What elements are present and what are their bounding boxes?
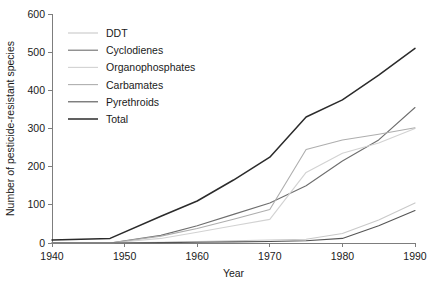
x-axis-title: Year — [223, 267, 245, 279]
x-tick-label: 1970 — [258, 250, 282, 262]
legend-label-pyrethroids: Pyrethroids — [106, 96, 159, 108]
series-line-total — [52, 48, 415, 240]
y-tick-label: 200 — [27, 160, 45, 172]
y-tick-label: 400 — [27, 84, 45, 96]
axis-layer: 0100200300400500600194019501960197019801… — [27, 8, 426, 262]
y-tick-label: 100 — [27, 198, 45, 210]
x-tick-label: 1960 — [186, 250, 210, 262]
x-tick-label: 1990 — [403, 250, 427, 262]
legend-label-organophosphates: Organophosphates — [106, 61, 195, 73]
y-tick-label: 300 — [27, 122, 45, 134]
y-tick-label: 500 — [27, 46, 45, 58]
x-tick-label: 1980 — [331, 250, 355, 262]
x-tick-label: 1940 — [40, 250, 64, 262]
x-tick-label: 1950 — [113, 250, 137, 262]
chart-container: 0100200300400500600194019501960197019801… — [0, 0, 427, 283]
legend-label-carbamates: Carbamates — [106, 79, 163, 91]
series-layer — [52, 48, 415, 243]
series-line-organophosphates — [52, 129, 415, 244]
line-chart: 0100200300400500600194019501960197019801… — [0, 0, 427, 283]
y-tick-label: 600 — [27, 8, 45, 20]
series-line-ddt — [52, 203, 415, 243]
legend-layer: DDTCyclodienesOrganophosphatesCarbamates… — [68, 27, 195, 125]
series-line-cyclodienes — [52, 108, 415, 243]
y-axis-title: Number of pesticide-resistant species — [4, 41, 16, 216]
legend-label-cyclodienes: Cyclodienes — [106, 44, 163, 56]
legend-label-ddt: DDT — [106, 27, 128, 39]
y-tick-label: 0 — [39, 237, 45, 249]
legend-label-total: Total — [106, 113, 128, 125]
